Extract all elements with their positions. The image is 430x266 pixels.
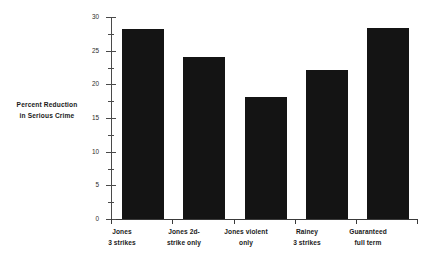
- y-tick-label-10: 10: [92, 148, 99, 156]
- x-tick-boundary-1: [111, 219, 112, 224]
- x-category-label-1-line-1: Jones 2d-: [168, 228, 200, 235]
- y-tick-label-0: 0: [95, 215, 99, 223]
- bar-guaranteed-full-term: [367, 28, 409, 219]
- y-tick-label-30: 30: [92, 13, 99, 21]
- y-tick-10: 10: [106, 152, 116, 153]
- x-tick-boundary-1b: [172, 219, 173, 224]
- x-category-label-0-line-1: Jones: [112, 228, 132, 235]
- y-tick-minor-7-5: [108, 169, 114, 170]
- x-axis-line: [111, 219, 418, 220]
- x-tick-boundary-5: [417, 219, 418, 224]
- y-tick-label-5: 5: [95, 181, 99, 189]
- y-tick-label-15: 15: [92, 114, 99, 122]
- y-tick-minor-17-5: [108, 101, 114, 102]
- y-tick-minor-2-5: [108, 202, 114, 203]
- x-tick-boundary-3: [295, 219, 296, 224]
- bar-rainey-3-strikes: [306, 70, 348, 219]
- y-axis-title-line-2: in Serious Crime: [20, 112, 75, 119]
- bar-jones-3-strikes: [122, 29, 164, 219]
- y-tick-30: 30: [106, 17, 116, 18]
- x-category-label-3-line-1: Rainey: [296, 228, 318, 235]
- y-tick-label-20: 20: [92, 80, 99, 88]
- x-category-label-4-line-1: Guaranteed: [349, 228, 387, 235]
- bar-jones-2d-strike-only: [183, 57, 225, 219]
- x-category-label-2-line-1: Jones violent: [224, 228, 267, 235]
- x-tick-boundary-4: [356, 219, 357, 224]
- y-tick-label-25: 25: [92, 47, 99, 55]
- y-tick-25: 25: [106, 51, 116, 52]
- bar-jones-violent-only: [245, 97, 287, 220]
- y-tick-minor-12-5: [108, 135, 114, 136]
- y-axis-title-line-1: Percent Reduction: [17, 101, 78, 108]
- y-tick-5: 5: [106, 185, 116, 186]
- y-axis-title: Percent Reduction in Serious Crime: [6, 99, 88, 121]
- y-tick-20: 20: [106, 84, 116, 85]
- x-category-label-4-line-2: full term: [332, 237, 404, 248]
- y-tick-minor-27-5: [108, 34, 114, 35]
- x-tick-boundary-2: [234, 219, 235, 224]
- y-tick-15: 15: [106, 118, 116, 119]
- bar-chart: Percent Reduction in Serious Crime 0 5 1…: [0, 0, 430, 266]
- x-category-label-4: Guaranteed full term: [332, 226, 404, 248]
- plot-area: 0 5 10 15 20 25 30: [111, 17, 418, 219]
- y-tick-minor-22-5: [108, 68, 114, 69]
